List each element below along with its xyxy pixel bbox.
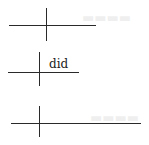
diagram-2-baseline xyxy=(8,72,79,73)
page-bleed-through: ▬▬▬▬ xyxy=(82,10,131,25)
diagram-2-predicate: did xyxy=(49,58,68,70)
diagram-2-subject-predicate-divider xyxy=(39,52,40,86)
diagram-1-subject-predicate-divider xyxy=(46,8,47,41)
diagram-3-baseline xyxy=(11,123,141,124)
diagram-1-baseline xyxy=(9,25,96,26)
diagram-3-subject-predicate-divider xyxy=(39,106,40,137)
